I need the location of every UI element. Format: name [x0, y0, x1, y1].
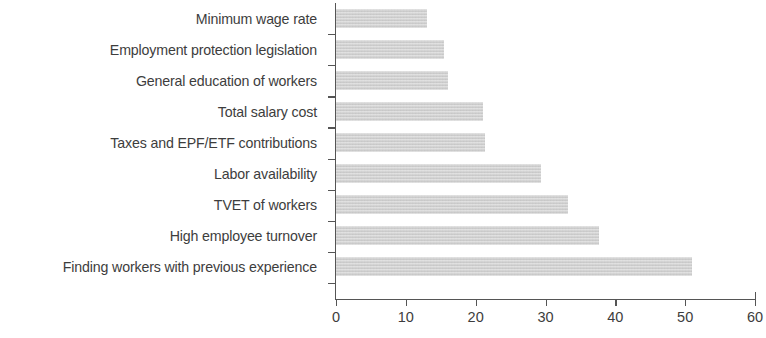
x-axis-tick: [406, 299, 407, 306]
y-axis-tick: [328, 221, 336, 222]
bar: [336, 164, 541, 183]
category-label-row: Finding workers with previous experience: [0, 252, 323, 283]
y-axis-tick: [328, 65, 336, 66]
category-label: Minimum wage rate: [196, 11, 323, 27]
category-label: Taxes and EPF/ETF contributions: [110, 135, 323, 151]
x-axis-tick: [546, 299, 547, 306]
bar: [336, 133, 485, 152]
bar: [336, 9, 427, 28]
y-axis-tick: [328, 190, 336, 191]
bar-row: [336, 190, 756, 221]
x-axis-tick: [336, 299, 337, 306]
bar: [336, 195, 568, 214]
category-label: Labor availability: [214, 166, 323, 182]
horizontal-bar-chart: Minimum wage rateEmployment protection l…: [0, 0, 766, 338]
x-axis-end-cap: [755, 292, 756, 299]
y-axis-tick: [328, 127, 336, 128]
category-label: High employee turnover: [170, 228, 323, 244]
x-axis-tick: [476, 299, 477, 306]
x-axis-tick: [755, 299, 756, 306]
x-axis-tick-label: 50: [677, 309, 693, 325]
bar: [336, 71, 448, 90]
x-axis-tick-label: 30: [537, 309, 553, 325]
x-axis-tick-label: 10: [398, 309, 414, 325]
x-axis-tick-label: 60: [747, 309, 763, 325]
category-label: General education of workers: [136, 73, 323, 89]
category-label: TVET of workers: [214, 197, 323, 213]
category-label: Finding workers with previous experience: [63, 259, 323, 275]
bar-row: [336, 127, 756, 158]
x-axis-tick: [615, 299, 616, 306]
x-axis-tick-label: 0: [332, 309, 340, 325]
y-axis-line: [335, 3, 336, 300]
bar-row: [336, 221, 756, 252]
category-label-row: Labor availability: [0, 159, 323, 190]
x-axis-tick-label: 40: [607, 309, 623, 325]
category-label-row: Total salary cost: [0, 96, 323, 127]
bar: [336, 102, 483, 121]
bar-row: [336, 3, 756, 34]
category-label-row: High employee turnover: [0, 221, 323, 252]
bar: [336, 257, 692, 276]
bar-row: [336, 159, 756, 190]
category-label-row: Minimum wage rate: [0, 3, 323, 34]
bar: [336, 40, 444, 59]
plot-area: [336, 0, 756, 299]
bar-row: [336, 96, 756, 127]
y-axis-tick: [328, 96, 336, 97]
category-label-row: Employment protection legislation: [0, 34, 323, 65]
y-axis-tick: [328, 252, 336, 253]
category-label-row: TVET of workers: [0, 190, 323, 221]
category-axis: Minimum wage rateEmployment protection l…: [0, 0, 329, 299]
bar-row: [336, 252, 756, 283]
category-label: Total salary cost: [218, 104, 323, 120]
category-label-row: General education of workers: [0, 65, 323, 96]
y-axis-tick: [328, 34, 336, 35]
x-axis-tick-label: 20: [468, 309, 484, 325]
bar-row: [336, 65, 756, 96]
y-axis-tick: [328, 159, 336, 160]
bar-row: [336, 34, 756, 65]
y-axis-tick: [328, 283, 336, 284]
x-axis-tick: [685, 299, 686, 306]
category-label: Employment protection legislation: [110, 42, 323, 58]
category-label-row: Taxes and EPF/ETF contributions: [0, 127, 323, 158]
bar: [336, 226, 599, 245]
